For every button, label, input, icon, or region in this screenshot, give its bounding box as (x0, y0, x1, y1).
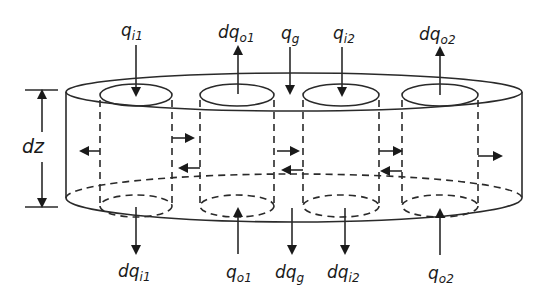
label-qi2: qi2 (333, 25, 355, 45)
label-qo1: qo1 (226, 264, 252, 284)
tube-2-top (200, 84, 274, 106)
tube-walls (100, 100, 478, 217)
tube-3-top (303, 84, 379, 106)
label-qi1: qi1 (121, 22, 143, 42)
label-qg: qg (281, 25, 299, 45)
label-dqo2: dqo2 (419, 26, 456, 46)
control-volume-diagram: dz qi1 dqo1 qg qi2 dqo2 dqi1 qo1 dqg dqi… (0, 0, 548, 302)
label-qo2: qo2 (428, 265, 454, 285)
label-dqi2: dqi2 (327, 264, 360, 284)
outer-bottom-back (66, 174, 522, 198)
label-dqg: dqg (275, 264, 304, 284)
cylinder-drawing (0, 0, 548, 302)
dz-label: dz (22, 137, 44, 156)
label-dqi1: dqi1 (118, 263, 151, 283)
outer-bottom-front (66, 198, 522, 222)
label-dqo1: dqo1 (218, 24, 255, 44)
